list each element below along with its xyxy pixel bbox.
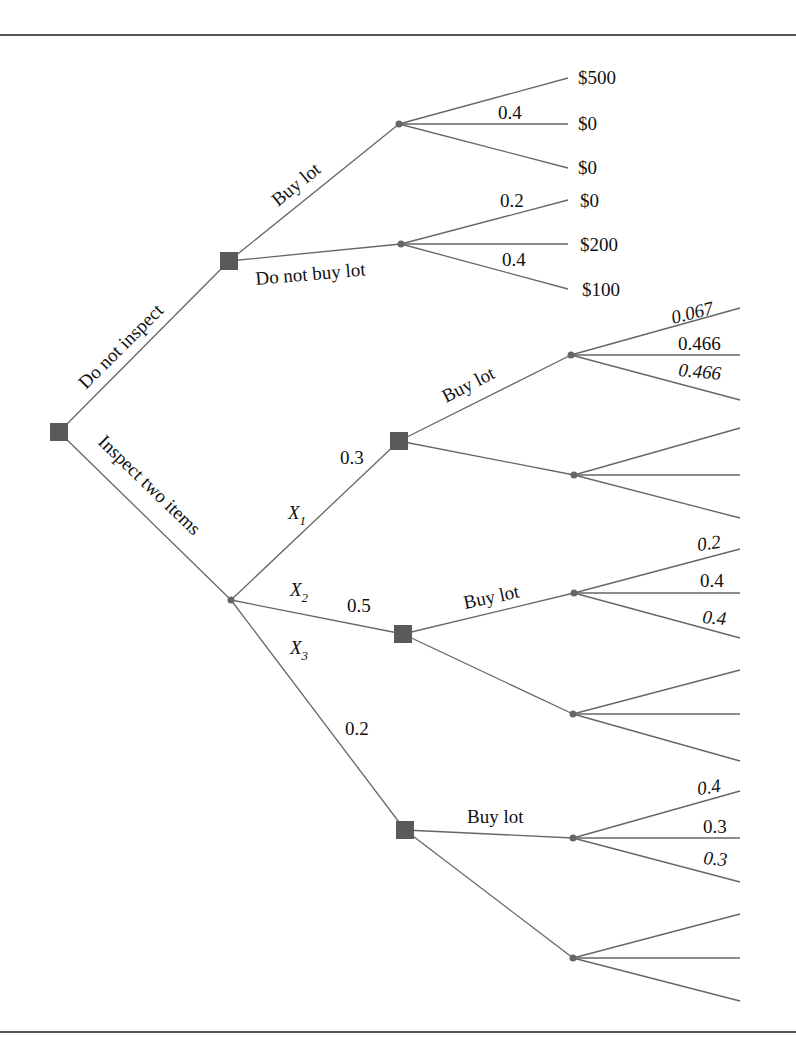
outcome-edge xyxy=(401,244,568,289)
prob-label: 0.4 xyxy=(502,249,526,270)
payoff-label: $100 xyxy=(582,279,620,300)
edge-sub3-nobuy xyxy=(405,830,573,958)
outcome-edge xyxy=(573,914,740,958)
outcome-edge xyxy=(401,200,568,244)
chance-node xyxy=(396,121,403,128)
decision-tree-diagram: Do not inspect Inspect two items Buy lot… xyxy=(0,0,796,1052)
edge-x2 xyxy=(231,600,403,634)
label-inspect-two-items: Inspect two items xyxy=(94,431,205,539)
prob-x3: 0.2 xyxy=(345,718,369,739)
payoff-label: $0 xyxy=(580,190,599,211)
prob-label: 0.067 xyxy=(669,297,717,328)
label-buy-lot: Buy lot xyxy=(467,806,524,827)
edge-x1 xyxy=(231,441,399,600)
decision-node-root xyxy=(50,423,68,441)
chance-node xyxy=(571,590,578,597)
prob-label: 0.2 xyxy=(696,531,723,555)
edge-do-not-inspect xyxy=(59,261,229,432)
prob-label: 0.4 xyxy=(700,570,724,591)
prob-label: 0.4 xyxy=(696,775,723,799)
decision-node-x3 xyxy=(396,821,414,839)
var-x2: X2 xyxy=(289,579,309,605)
prob-label: 0.466 xyxy=(678,333,721,354)
edge-sub3-buy xyxy=(405,830,573,838)
var-x1: X1 xyxy=(287,502,306,528)
edge-x3 xyxy=(231,600,405,830)
outcome-edge xyxy=(574,475,740,518)
outcome-edge xyxy=(573,714,740,761)
edge-do-not-buy-lot xyxy=(229,244,401,261)
prob-label: 0.3 xyxy=(703,816,727,837)
edge-buy-lot xyxy=(229,124,399,261)
payoff-label: $500 xyxy=(578,67,616,88)
prob-x1: 0.3 xyxy=(340,447,364,468)
outcome-edge xyxy=(573,670,740,714)
chance-node xyxy=(398,241,405,248)
prob-label: 0.3 xyxy=(703,847,728,870)
label-buy-lot: Buy lot xyxy=(267,158,325,210)
chance-node xyxy=(568,352,575,359)
edge-sub2-nobuy xyxy=(403,634,573,714)
label-do-not-inspect: Do not inspect xyxy=(74,299,168,393)
decision-node-x2 xyxy=(394,625,412,643)
decision-node-no-inspect xyxy=(220,252,238,270)
chance-node xyxy=(571,472,578,479)
label-buy-lot: Buy lot xyxy=(438,362,499,407)
prob-label: 0.466 xyxy=(678,359,723,384)
chance-node-inspect xyxy=(228,597,235,604)
outcome-edge xyxy=(574,428,740,475)
decision-node-x1 xyxy=(390,432,408,450)
payoff-label: $0 xyxy=(578,157,597,178)
label-do-not-buy-lot: Do not buy lot xyxy=(255,258,367,289)
payoff-label: $200 xyxy=(580,234,618,255)
edge-sub1-nobuy xyxy=(399,441,574,475)
prob-label: 0.4 xyxy=(498,102,522,123)
payoff-label: $0 xyxy=(578,113,597,134)
outcome-edge xyxy=(573,958,740,1001)
edge-inspect-two xyxy=(59,432,231,600)
chance-node xyxy=(570,711,577,718)
prob-x2: 0.5 xyxy=(347,595,371,616)
prob-label: 0.2 xyxy=(500,190,524,211)
outcome-edge xyxy=(399,78,568,124)
chance-node xyxy=(570,835,577,842)
var-x3: X3 xyxy=(289,637,309,663)
chance-node xyxy=(570,955,577,962)
outcome-edge xyxy=(399,124,568,168)
prob-label: 0.4 xyxy=(702,606,728,629)
